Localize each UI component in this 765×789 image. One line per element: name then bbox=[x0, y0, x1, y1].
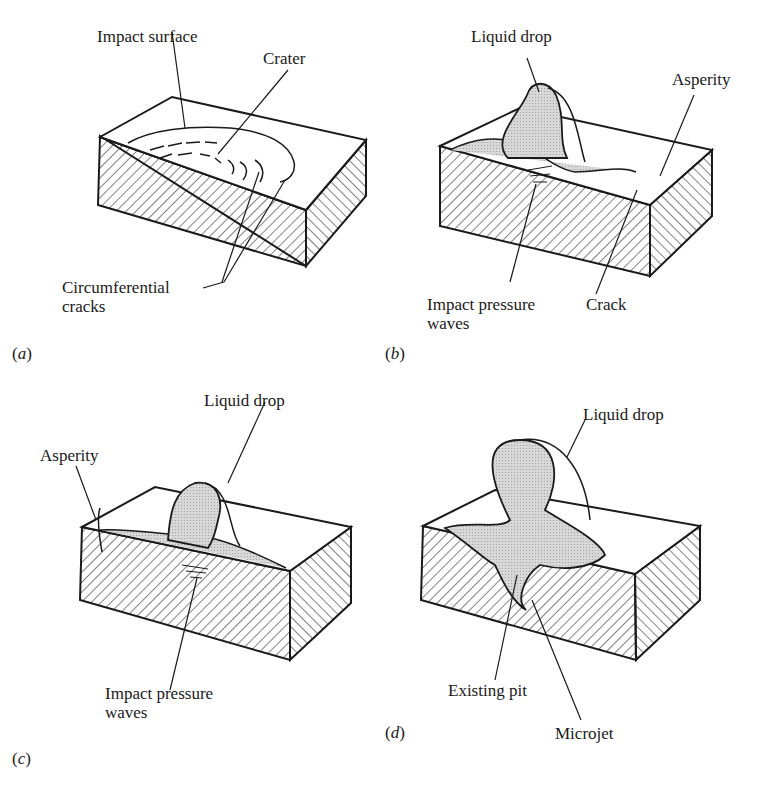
label-impact-pressure-waves-c-line2: waves bbox=[105, 704, 147, 722]
label-microjet: Microjet bbox=[555, 725, 614, 743]
panel-c-block bbox=[76, 402, 351, 690]
panel-a-caption: (a) bbox=[12, 344, 32, 364]
label-crack-b: Crack bbox=[586, 296, 627, 314]
panel-b-block bbox=[440, 58, 712, 294]
label-existing-pit: Existing pit bbox=[448, 682, 527, 700]
panel-a-block bbox=[98, 32, 366, 288]
label-liquid-drop-b: Liquid drop bbox=[471, 28, 552, 46]
panel-b-caption: (b) bbox=[385, 344, 405, 364]
label-circumferential-cracks-line1: Circumferential bbox=[62, 279, 170, 297]
label-liquid-drop-c: Liquid drop bbox=[204, 392, 285, 410]
label-impact-pressure-waves-b-line2: waves bbox=[427, 315, 469, 333]
label-circumferential-cracks-line2: cracks bbox=[62, 298, 105, 316]
label-impact-pressure-waves-c-line1: Impact pressure bbox=[105, 685, 213, 703]
label-liquid-drop-d: Liquid drop bbox=[583, 406, 664, 424]
panel-d-block bbox=[421, 420, 700, 720]
label-crater: Crater bbox=[263, 50, 305, 68]
liquid-impact-erosion-diagram bbox=[0, 0, 765, 789]
panel-c-caption: (c) bbox=[12, 749, 31, 769]
label-asperity-c: Asperity bbox=[40, 447, 99, 465]
label-impact-surface: Impact surface bbox=[97, 28, 198, 46]
panel-d-caption: (d) bbox=[385, 723, 405, 743]
label-asperity-b: Asperity bbox=[672, 71, 731, 89]
label-impact-pressure-waves-b-line1: Impact pressure bbox=[427, 296, 535, 314]
